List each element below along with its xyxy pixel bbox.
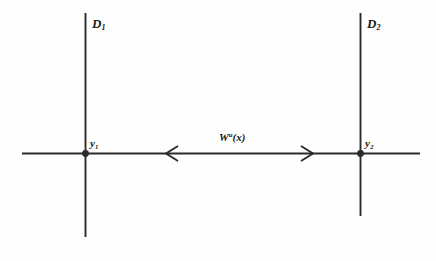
diagram-vector-layer [0, 0, 436, 261]
label-d1-base: D [92, 16, 101, 31]
label-y2-subscript: 2 [370, 143, 373, 150]
label-d1: D1 [92, 17, 105, 32]
label-wu-argument: (x) [233, 131, 246, 143]
fixed-point-y1-dot [82, 150, 89, 157]
label-y2: y2 [365, 138, 373, 150]
label-d2-subscript: 2 [376, 23, 380, 32]
label-d1-subscript: 1 [101, 23, 105, 32]
label-y1-subscript: 1 [95, 143, 98, 150]
fixed-point-y2-dot [357, 150, 364, 157]
label-y1: y1 [90, 138, 98, 150]
label-wu-base: W [219, 131, 229, 143]
label-unstable-manifold: Wu(x) [219, 132, 245, 143]
diagram-canvas: D1 D2 y1 y2 Wu(x) [0, 0, 436, 261]
label-d2-base: D [367, 16, 376, 31]
label-d2: D2 [367, 17, 380, 32]
